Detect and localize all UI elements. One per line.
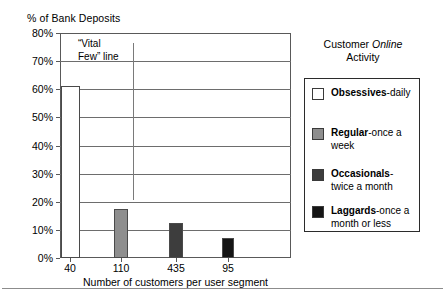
x-axis-title: Number of customers per user segment xyxy=(60,276,291,288)
legend-item-label: Laggards-once amonth or less xyxy=(331,205,409,230)
legend-swatch-icon xyxy=(312,88,324,100)
y-axis-tick-mark xyxy=(56,117,60,118)
legend-item-desc: -daily xyxy=(387,87,411,98)
y-axis-tick-mark xyxy=(56,202,60,203)
y-axis-tick-mark xyxy=(56,146,60,147)
plot-area: 80%70%60%50%40%30%20%10%0% “Vital Few” l… xyxy=(60,33,291,258)
gridline xyxy=(60,117,291,118)
vital-few-line xyxy=(133,43,134,200)
gridline xyxy=(60,174,291,175)
bar-40 xyxy=(61,86,80,258)
legend-title: Customer Online Activity xyxy=(304,38,422,64)
legend-item-desc2: month or less xyxy=(331,218,391,229)
y-axis-tick-label: 0% xyxy=(38,252,53,264)
legend-item-laggards[interactable]: Laggards-once amonth or less xyxy=(312,205,416,230)
legend-box: Obsessives-dailyRegular-once aweekOccasi… xyxy=(304,78,420,232)
x-axis-tick-label: 110 xyxy=(113,262,130,274)
legend-item-obsessives[interactable]: Obsessives-daily xyxy=(312,87,416,100)
legend-title-italic: Online xyxy=(372,38,402,50)
y-axis-title: % of Bank Deposits xyxy=(27,12,120,24)
y-axis-tick-label: 10% xyxy=(32,224,53,236)
legend-swatch-icon xyxy=(312,128,324,140)
bar-110 xyxy=(114,209,128,258)
legend-item-name: Laggards xyxy=(331,205,376,216)
legend-swatch-icon xyxy=(312,169,324,181)
y-axis-tick-mark xyxy=(56,230,60,231)
x-axis-tick-label: 40 xyxy=(64,262,76,274)
legend-item-name: Regular xyxy=(331,127,368,138)
bar-95 xyxy=(222,238,234,258)
gridline xyxy=(60,146,291,147)
y-axis-tick-label: 60% xyxy=(32,83,53,95)
y-axis-tick-mark xyxy=(56,89,60,90)
bar-435 xyxy=(169,223,183,258)
chart-figure: % of Bank Deposits 80%70%60%50%40%30%20%… xyxy=(0,0,445,295)
legend-item-desc: -once a xyxy=(368,127,401,138)
legend-item-regular[interactable]: Regular-once aweek xyxy=(312,127,416,152)
y-axis-tick-label: 30% xyxy=(32,168,53,180)
gridline xyxy=(60,89,291,90)
legend-item-desc: - xyxy=(390,168,393,179)
legend-title-prefix: Customer xyxy=(324,38,372,50)
y-axis-tick-mark xyxy=(56,174,60,175)
y-axis-tick-label: 80% xyxy=(32,27,53,39)
vital-few-annotation-line1: “Vital xyxy=(78,38,119,51)
legend-title-line2: Activity xyxy=(346,51,379,63)
vital-few-annotation: “Vital Few” line xyxy=(78,38,119,63)
legend-item-label: Regular-once aweek xyxy=(331,127,402,152)
legend-item-desc: -once a xyxy=(376,205,409,216)
x-axis-tick-label: 95 xyxy=(222,262,234,274)
legend-item-name: Obsessives xyxy=(331,87,387,98)
y-axis-tick-label: 20% xyxy=(32,196,53,208)
legend-item-name: Occasionals xyxy=(331,168,390,179)
legend-item-desc2: twice a month xyxy=(331,181,393,192)
y-axis-tick-mark xyxy=(56,33,60,34)
legend-item-desc2: week xyxy=(331,140,354,151)
vital-few-annotation-line2: Few” line xyxy=(78,51,119,64)
legend-item-occasionals[interactable]: Occasionals-twice a month xyxy=(312,168,416,193)
y-axis-tick-label: 50% xyxy=(32,111,53,123)
y-axis-tick-mark xyxy=(56,258,60,259)
legend-item-label: Obsessives-daily xyxy=(331,87,411,100)
y-axis-tick-mark xyxy=(56,61,60,62)
legend-item-label: Occasionals-twice a month xyxy=(331,168,393,193)
y-axis-tick-label: 40% xyxy=(32,140,53,152)
legend-swatch-icon xyxy=(312,206,324,218)
y-axis-tick-label: 70% xyxy=(32,55,53,67)
x-axis-tick-label: 435 xyxy=(167,262,185,274)
gridline xyxy=(60,202,291,203)
bottom-divider xyxy=(2,288,443,289)
